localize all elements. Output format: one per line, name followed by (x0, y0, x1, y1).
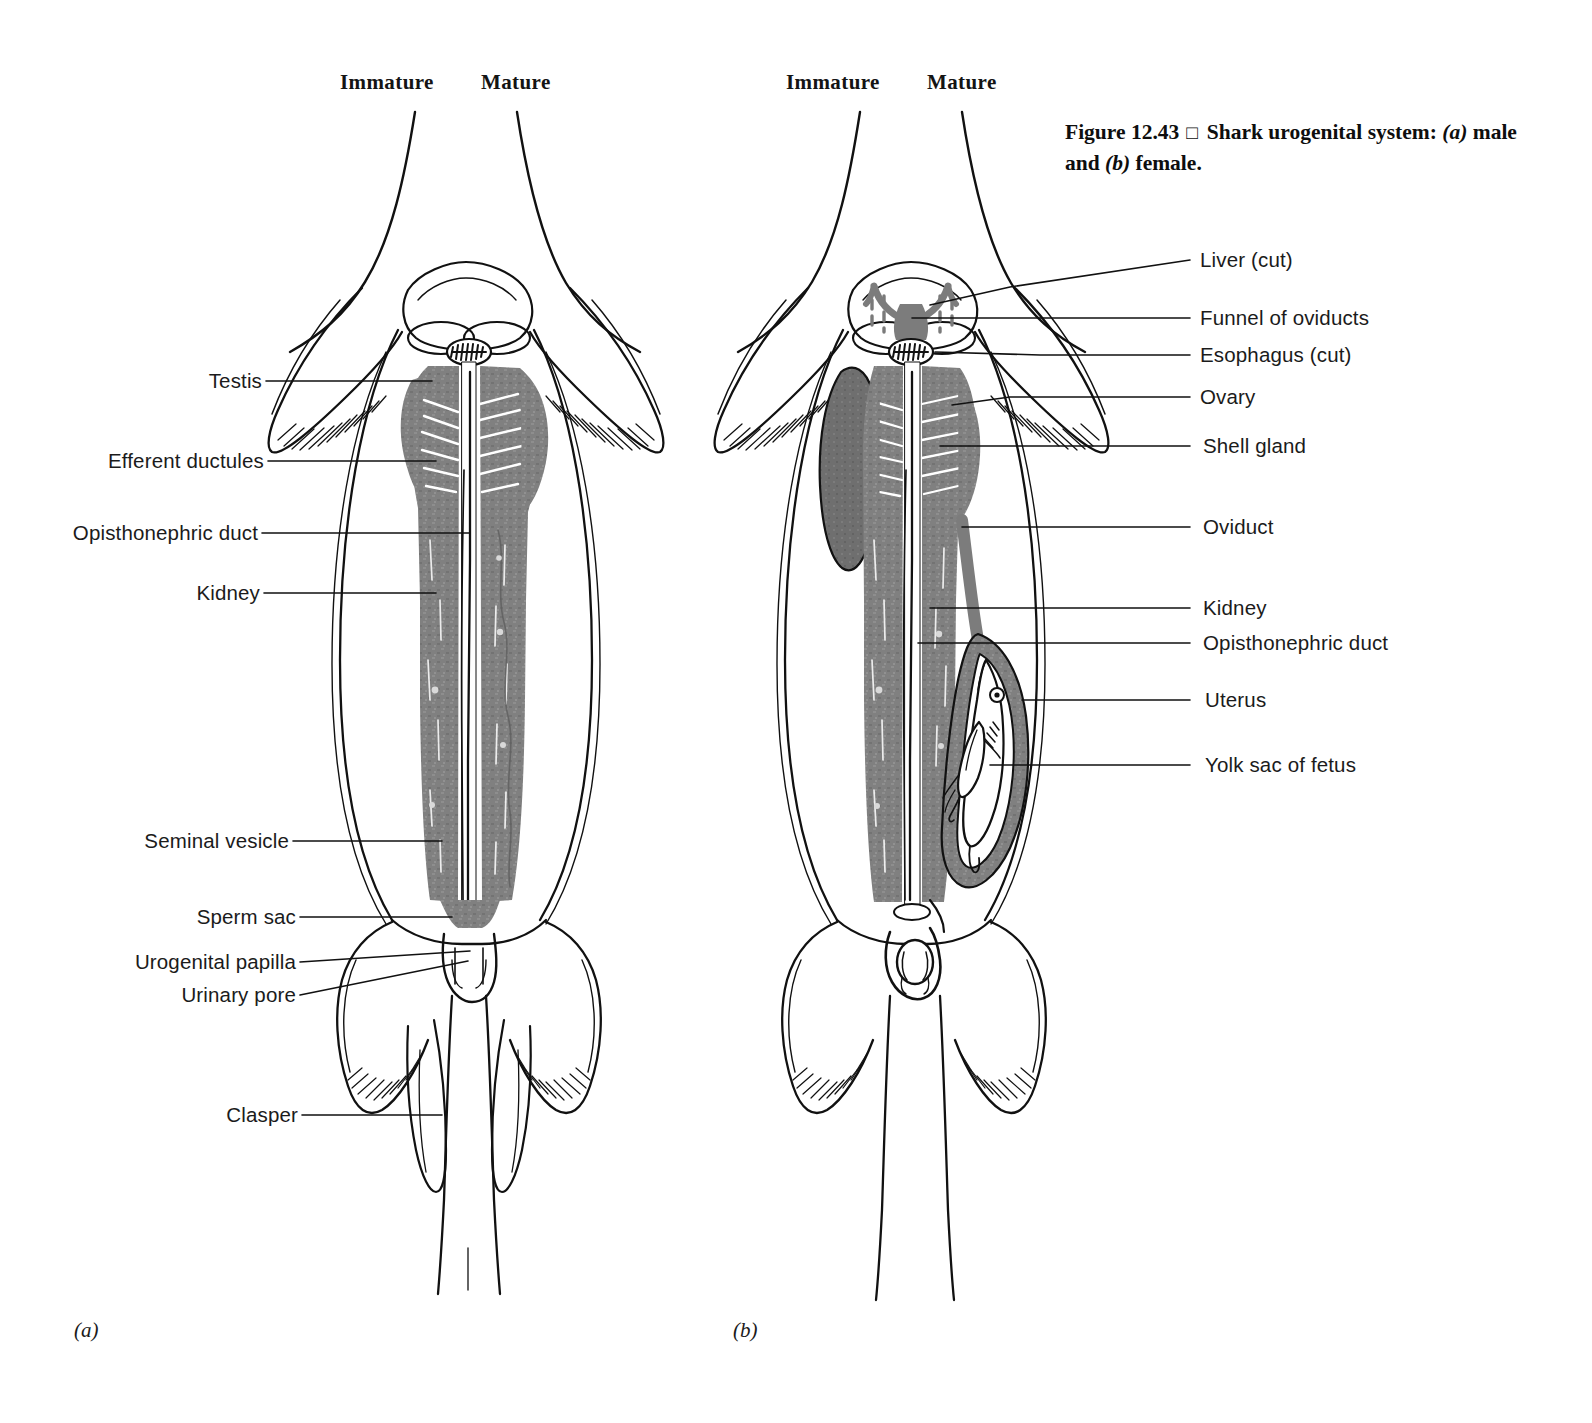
label-funnel-of-oviducts: Funnel of oviducts (1200, 306, 1369, 330)
label-esophagus-cut: Esophagus (cut) (1200, 343, 1352, 367)
label-oviduct: Oviduct (1203, 515, 1274, 539)
label-shell-gland: Shell gland (1203, 434, 1306, 458)
oviduct (962, 520, 978, 640)
label-opisthonephric-duct-female: Opisthonephric duct (1203, 631, 1388, 655)
male-testis-and-kidney (401, 362, 548, 928)
female-shark-body (715, 112, 1109, 924)
female-organs (820, 362, 1029, 908)
figure-caption: Figure 12.43□Shark urogenital system: (a… (1065, 117, 1540, 178)
shark-urogenital-artwork (0, 0, 1592, 1423)
label-opisthonephric-duct-male: Opisthonephric duct (73, 521, 258, 545)
yolk-sac (943, 722, 984, 822)
label-seminal-vesicle: Seminal vesicle (144, 829, 289, 853)
ovary (820, 368, 878, 570)
female-immature-header: Immature (786, 70, 880, 95)
esophagus-cut-hatching (451, 344, 486, 360)
male-immature-header: Immature (340, 70, 434, 95)
funnel-of-oviducts (874, 286, 948, 320)
uterus (942, 634, 1029, 887)
panel-id-a: (a) (74, 1318, 99, 1343)
female-mature-header: Mature (927, 70, 997, 95)
label-uterus: Uterus (1205, 688, 1266, 712)
label-clasper: Clasper (226, 1103, 298, 1127)
label-liver-cut: Liver (cut) (1200, 248, 1293, 272)
figure-title-b: (b) (1105, 151, 1130, 175)
panel-id-b: (b) (733, 1318, 758, 1343)
female-pelvic-region (782, 900, 1046, 1300)
label-urogenital-papilla: Urogenital papilla (135, 950, 296, 974)
male-pelvic-region (337, 920, 601, 1294)
male-mature-header: Mature (481, 70, 551, 95)
label-kidney-male: Kidney (196, 581, 260, 605)
label-ovary: Ovary (1200, 385, 1255, 409)
figure-title-part1: Shark urogenital system: (1207, 120, 1443, 144)
label-yolk-sac-of-fetus: Yolk sac of fetus (1205, 753, 1356, 777)
uterine-cavity (957, 654, 1013, 868)
figure-marker-icon: □ (1179, 122, 1206, 143)
figure-number: Figure 12.43 (1065, 120, 1179, 144)
label-urinary-pore: Urinary pore (181, 983, 296, 1007)
liver-cut-hatch (872, 296, 952, 332)
figure-page: Immature Mature Immature Mature Figure 1… (0, 0, 1592, 1423)
female-leader-lines (912, 260, 1190, 765)
figure-title-part3: female. (1130, 151, 1202, 175)
figure-title-a: (a) (1442, 120, 1467, 144)
shark-fetus (963, 660, 1004, 872)
label-kidney-female: Kidney (1203, 596, 1267, 620)
label-testis: Testis (209, 369, 262, 393)
male-shark-body (269, 112, 664, 924)
label-sperm-sac: Sperm sac (197, 905, 296, 929)
label-efferent-ductules: Efferent ductules (108, 449, 264, 473)
